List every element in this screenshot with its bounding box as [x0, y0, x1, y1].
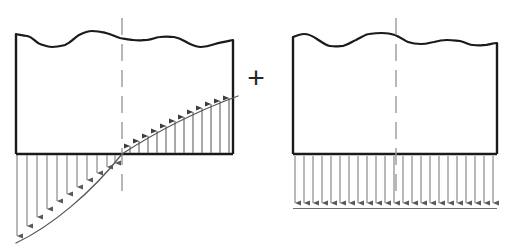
moment-pressure-panel [16, 18, 238, 243]
upward-pressure-arrows [130, 98, 229, 153]
body-wavy-top-edge [16, 31, 233, 47]
uniform-pressure-panel [293, 18, 497, 209]
foundation-body-left [16, 31, 233, 154]
downward-pressure-arrows [17, 155, 115, 236]
uniform-pressure-arrows [295, 156, 493, 203]
body-wavy-top-edge-right-panel [293, 33, 497, 46]
plus-operator: + [240, 61, 272, 95]
diagram-canvas: + [0, 0, 513, 250]
foundation-body-right [293, 33, 497, 154]
pressure-envelope-curve [16, 96, 238, 243]
pressure-superposition-diagram [0, 0, 513, 250]
